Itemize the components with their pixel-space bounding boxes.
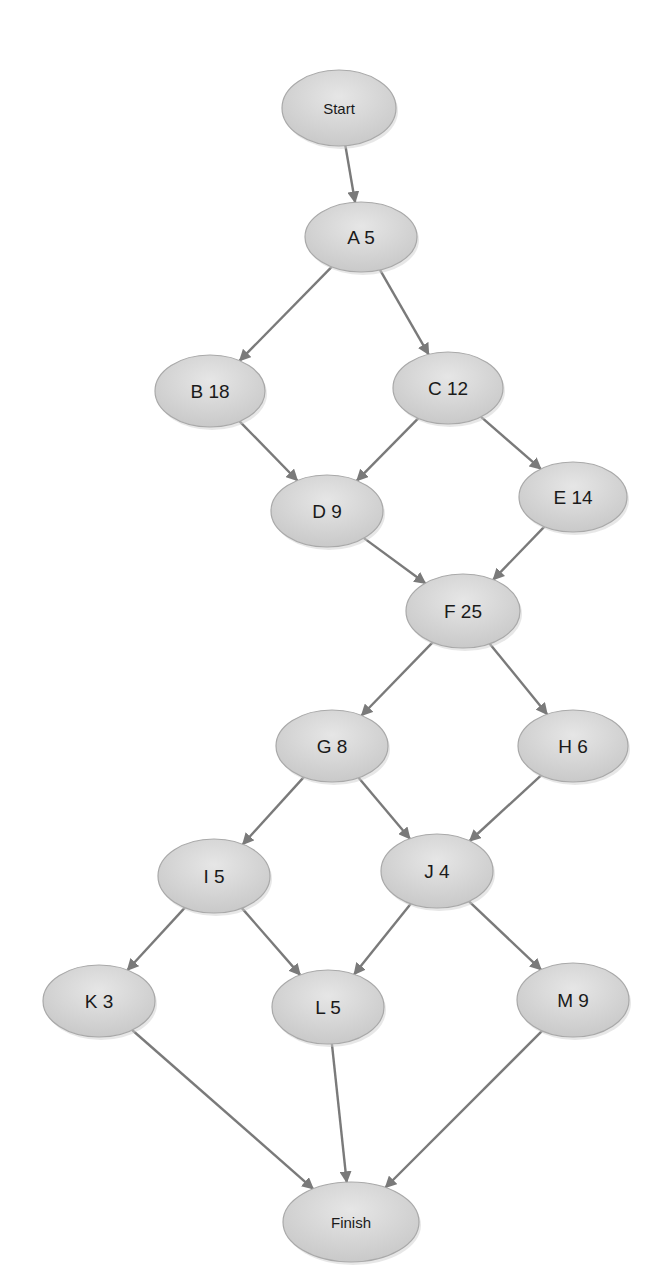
node-label: G 8 bbox=[317, 736, 348, 757]
node-i: I 5 bbox=[158, 839, 272, 916]
node-c: C 12 bbox=[393, 352, 505, 427]
node-label: F 25 bbox=[444, 601, 482, 622]
edge-l-to-finish bbox=[332, 1044, 347, 1182]
node-d: D 9 bbox=[271, 475, 385, 550]
node-label: B 18 bbox=[190, 381, 229, 402]
edge-f-to-g bbox=[362, 642, 433, 715]
edge-i-to-k bbox=[128, 908, 185, 970]
node-label: I 5 bbox=[203, 866, 224, 887]
edge-m-to-finish bbox=[386, 1031, 543, 1188]
node-label: Start bbox=[323, 100, 356, 117]
node-label: C 12 bbox=[428, 378, 468, 399]
edge-start-to-a bbox=[345, 146, 355, 202]
node-m: M 9 bbox=[517, 963, 631, 1040]
node-b: B 18 bbox=[155, 355, 267, 430]
edge-d-to-f bbox=[364, 538, 425, 583]
node-h: H 6 bbox=[518, 710, 630, 785]
edge-g-to-j bbox=[359, 778, 410, 839]
edge-c-to-d bbox=[357, 418, 418, 480]
activity-network-diagram: StartA 5B 18C 12D 9E 14F 25G 8H 6I 5J 4K… bbox=[0, 0, 668, 1280]
node-f: F 25 bbox=[406, 574, 522, 651]
node-g: G 8 bbox=[276, 710, 390, 785]
node-start: Start bbox=[282, 70, 398, 149]
edge-b-to-d bbox=[240, 421, 298, 480]
edge-k-to-finish bbox=[132, 1030, 313, 1189]
edge-c-to-e bbox=[481, 417, 541, 469]
edge-f-to-h bbox=[490, 644, 547, 715]
node-label: H 6 bbox=[558, 736, 588, 757]
node-label: Finish bbox=[331, 1214, 371, 1231]
node-e: E 14 bbox=[519, 462, 629, 535]
edge-h-to-j bbox=[470, 775, 541, 841]
node-label: K 3 bbox=[85, 991, 114, 1012]
node-label: D 9 bbox=[312, 501, 342, 522]
node-label: J 4 bbox=[424, 861, 450, 882]
edge-a-to-b bbox=[240, 267, 332, 361]
edge-i-to-l bbox=[242, 908, 300, 975]
edge-j-to-m bbox=[469, 901, 541, 969]
edge-j-to-l bbox=[354, 904, 411, 975]
node-label: A 5 bbox=[347, 227, 374, 248]
edge-g-to-i bbox=[243, 777, 304, 844]
node-label: L 5 bbox=[315, 997, 341, 1018]
node-label: E 14 bbox=[553, 487, 593, 508]
node-label: M 9 bbox=[557, 990, 589, 1011]
node-a: A 5 bbox=[305, 202, 419, 275]
node-l: L 5 bbox=[272, 970, 386, 1047]
edge-a-to-c bbox=[380, 270, 429, 354]
node-finish: Finish bbox=[283, 1182, 421, 1265]
node-j: J 4 bbox=[381, 834, 495, 911]
node-k: K 3 bbox=[43, 965, 157, 1040]
edge-e-to-f bbox=[493, 527, 544, 580]
